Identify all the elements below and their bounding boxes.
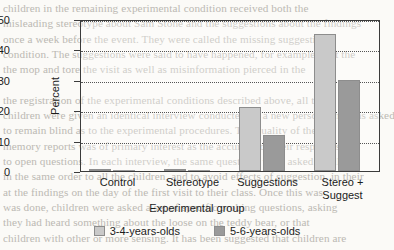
bar[interactable] (89, 169, 111, 171)
bar[interactable] (338, 80, 360, 171)
x-axis-tick-label-line: Suggest (298, 189, 388, 202)
legend-swatch-icon (214, 226, 225, 236)
plot-area (81, 21, 379, 171)
legend-item[interactable]: 5-6-years-olds (214, 225, 300, 237)
bar-group (231, 21, 306, 171)
bar-group (81, 21, 156, 171)
y-axis-tick (74, 172, 80, 173)
legend-swatch-icon (94, 226, 105, 236)
y-axis-tick-label: 50 (0, 14, 10, 26)
plot-frame (80, 20, 380, 172)
bar[interactable] (263, 135, 285, 171)
y-axis-tick-label: 10 (0, 136, 10, 148)
legend-label: 3-4-years-olds (110, 225, 180, 237)
y-axis-tick-label: 20 (0, 105, 10, 117)
legend-label: 5-6-years-olds (230, 225, 300, 237)
bar[interactable] (113, 170, 135, 171)
y-axis-tick-label: 0 (0, 166, 10, 178)
x-axis-tick-label: Stereo +Suggest (298, 176, 388, 201)
y-axis-title: Percent (49, 77, 61, 115)
y-axis-tick-label: 40 (0, 44, 10, 56)
bar[interactable] (188, 170, 210, 171)
legend-item[interactable]: 3-4-years-olds (94, 225, 180, 237)
bar[interactable] (239, 107, 261, 171)
x-axis-tick-label-line: Stereo + (298, 176, 388, 189)
bar-group (306, 21, 381, 171)
bar[interactable] (164, 169, 186, 171)
bar-chart-figure: Percent 01020304050 ControlStereotypeSug… (0, 0, 394, 250)
bar[interactable] (314, 34, 336, 171)
y-axis-tick-label: 30 (0, 75, 10, 87)
bar-group (156, 21, 231, 171)
chart-legend: 3-4-years-olds5-6-years-olds (0, 225, 394, 237)
x-axis-title: Experimental group (0, 202, 394, 214)
